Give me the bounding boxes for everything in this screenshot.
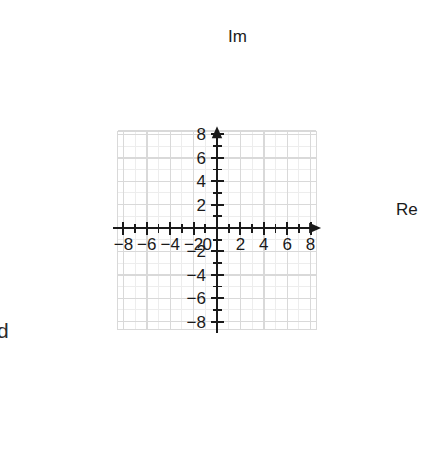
y-tick-label: −8 [187,313,206,332]
x-tick-label: 8 [306,235,315,254]
y-tick-label: −6 [187,289,206,308]
y-tick-label: 6 [197,149,206,168]
imaginary-axis-label: Im [228,27,247,46]
x-tick-label: 2 [236,235,245,254]
origin-label: 0 [203,235,212,254]
y-tick-label: −4 [187,266,206,285]
y-tick-label: 4 [197,172,206,191]
y-tick-label: 2 [197,196,206,215]
y-tick-label: 8 [197,125,206,144]
x-tick-label: 6 [282,235,291,254]
argand-diagram-svg: −8−6−4−22468 −8−6−4−22468 0 Re Im d [0,0,435,451]
x-tick-label: −8 [114,235,133,254]
complex-plane-figure: −8−6−4−22468 −8−6−4−22468 0 Re Im d [0,0,435,451]
x-tick-label: 4 [259,235,268,254]
clipped-edge-letter: d [0,319,9,342]
x-tick-label: −6 [137,235,156,254]
real-axis-label: Re [396,200,418,219]
x-tick-label: −4 [161,235,180,254]
